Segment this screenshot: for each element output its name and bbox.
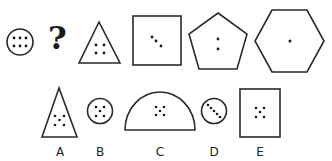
sequence-triangle-four-dots <box>79 22 120 63</box>
sequence-square-three-dots <box>133 16 181 65</box>
option-b-circle[interactable] <box>88 99 113 124</box>
option-e-square[interactable] <box>240 89 280 137</box>
option-e-label[interactable]: E <box>250 145 270 159</box>
option-c-label[interactable]: C <box>150 145 170 159</box>
option-a-label[interactable]: A <box>50 145 70 159</box>
option-c-semicircle[interactable] <box>125 92 195 130</box>
option-d-circle-diagonal[interactable] <box>202 99 227 124</box>
sequence-circle-six-dots <box>7 29 33 55</box>
option-d-label[interactable]: D <box>204 145 224 159</box>
option-b-label[interactable]: B <box>90 145 110 159</box>
option-a-triangle[interactable] <box>42 88 77 137</box>
question-mark: ? <box>48 22 67 54</box>
sequence-hexagon-one-dot <box>255 10 324 72</box>
sequence-pentagon-two-dots <box>189 13 247 69</box>
